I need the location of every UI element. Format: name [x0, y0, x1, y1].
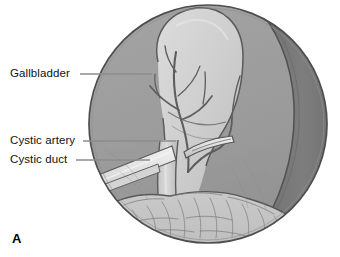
illustration-canvas	[0, 0, 340, 257]
figure-panel-a: Gallbladder Cystic artery Cystic duct A	[0, 0, 340, 257]
figure-panel-letter: A	[12, 232, 21, 245]
label-cystic-artery: Cystic artery	[10, 135, 75, 147]
label-cystic-duct: Cystic duct	[10, 154, 67, 166]
laparoscope-field	[58, 0, 336, 256]
label-gallbladder: Gallbladder	[10, 68, 70, 80]
